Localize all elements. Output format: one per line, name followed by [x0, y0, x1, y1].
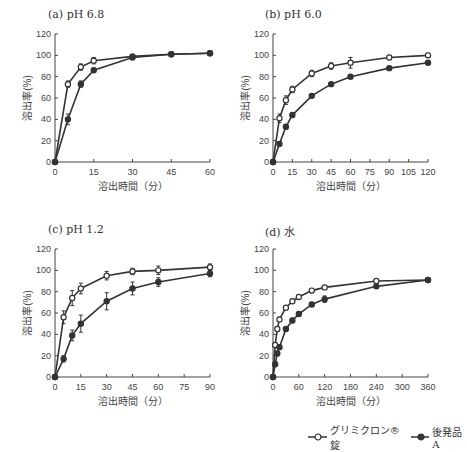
data-point	[309, 93, 314, 98]
data-point	[65, 82, 70, 87]
y-axis-label: 溶出率(%)	[239, 75, 251, 121]
x-tick-label: 0	[52, 382, 57, 392]
data-point	[78, 82, 83, 87]
data-point	[91, 58, 96, 63]
data-point	[290, 299, 295, 304]
x-axis-label: 溶出時間（分）	[316, 180, 386, 192]
chart-svg: 020406080100120060120180240300360溶出時間（分）…	[233, 215, 467, 425]
legend: グリミクロン®錠 後発品A	[308, 422, 467, 452]
chart-svg: 020406080100120015304560溶出時間（分）溶出率(%)	[0, 0, 233, 210]
x-tick-label: 120	[317, 382, 332, 392]
data-point	[425, 53, 430, 58]
y-tick-label: 100	[254, 50, 269, 60]
y-tick-label: 80	[41, 72, 51, 82]
x-tick-label: 45	[127, 382, 137, 392]
y-tick-label: 40	[41, 114, 51, 124]
data-point	[156, 268, 161, 273]
y-tick-label: 0	[46, 372, 51, 382]
y-tick-label: 0	[46, 157, 51, 167]
data-point	[130, 269, 135, 274]
x-tick-label: 300	[395, 382, 410, 392]
data-point	[348, 74, 353, 79]
chart-svg: 0204060801001200153045607590溶出時間（分）溶出率(%…	[0, 215, 233, 425]
chart-panel-c: (c) pH 1.2 0204060801001200153045607590溶…	[0, 215, 233, 425]
series-line	[273, 280, 428, 377]
data-point	[78, 64, 83, 69]
data-point	[61, 356, 66, 361]
legend-item-generic-a: 後発品A	[411, 424, 467, 450]
x-tick-label: 15	[76, 382, 86, 392]
x-tick-label: 15	[287, 167, 297, 177]
series-line	[55, 53, 210, 162]
x-tick-label: 105	[401, 167, 416, 177]
y-tick-label: 20	[41, 351, 51, 361]
data-point	[277, 141, 282, 146]
data-point	[387, 66, 392, 71]
x-tick-label: 15	[89, 167, 99, 177]
data-point	[329, 82, 334, 87]
data-point	[70, 295, 75, 300]
chart-title: (d) 水	[265, 223, 295, 239]
x-tick-label: 30	[307, 167, 317, 177]
data-point	[374, 278, 379, 283]
data-point	[78, 321, 83, 326]
data-point	[283, 98, 288, 103]
y-tick-label: 40	[259, 114, 269, 124]
x-tick-label: 75	[179, 382, 189, 392]
data-point	[130, 55, 135, 60]
data-point	[275, 326, 280, 331]
x-tick-label: 60	[345, 167, 355, 177]
data-point	[275, 351, 280, 356]
x-tick-label: 30	[102, 382, 112, 392]
x-tick-label: 60	[294, 382, 304, 392]
x-axis-label: 溶出時間（分）	[98, 180, 168, 192]
y-tick-label: 120	[36, 244, 51, 254]
chart-svg: 0204060801001200153045607590105120溶出時間（分…	[233, 0, 467, 210]
chart-panel-b: (b) pH 6.0 02040608010012001530456075901…	[233, 0, 466, 210]
x-tick-label: 0	[270, 167, 275, 177]
chart-title: (a) pH 6.8	[48, 8, 104, 21]
data-point	[329, 63, 334, 68]
y-tick-label: 120	[254, 244, 269, 254]
chart-panel-a: (a) pH 6.8 020406080100120015304560溶出時間（…	[0, 0, 233, 210]
y-tick-label: 40	[259, 329, 269, 339]
y-tick-label: 60	[41, 93, 51, 103]
y-tick-label: 80	[259, 72, 269, 82]
x-tick-label: 360	[420, 382, 435, 392]
data-point	[61, 315, 66, 320]
data-point	[309, 71, 314, 76]
series-line	[273, 280, 428, 377]
x-tick-label: 180	[343, 382, 358, 392]
y-tick-label: 120	[36, 29, 51, 39]
y-tick-label: 60	[259, 308, 269, 318]
x-tick-label: 30	[127, 167, 137, 177]
data-point	[207, 265, 212, 270]
data-point	[207, 271, 212, 276]
y-tick-label: 40	[41, 329, 51, 339]
y-tick-label: 100	[36, 50, 51, 60]
data-point	[52, 159, 57, 164]
data-point	[309, 288, 314, 293]
data-point	[322, 297, 327, 302]
y-tick-label: 20	[259, 136, 269, 146]
data-point	[374, 284, 379, 289]
data-point	[322, 285, 327, 290]
x-tick-label: 60	[153, 382, 163, 392]
legend-item-glimicron: グリミクロン®錠	[308, 422, 405, 452]
y-axis-label: 溶出率(%)	[21, 75, 33, 121]
y-tick-label: 100	[254, 265, 269, 275]
data-point	[283, 305, 288, 310]
y-tick-label: 80	[259, 287, 269, 297]
chart-panel-d: (d) 水 020406080100120060120180240300360溶…	[233, 215, 466, 425]
x-axis-label: 溶出時間（分）	[98, 395, 168, 407]
y-tick-label: 0	[264, 372, 269, 382]
y-tick-label: 80	[41, 287, 51, 297]
data-point	[270, 159, 275, 164]
y-tick-label: 20	[259, 351, 269, 361]
data-point	[296, 311, 301, 316]
data-point	[290, 87, 295, 92]
data-point	[283, 326, 288, 331]
data-point	[277, 317, 282, 322]
y-tick-label: 100	[36, 265, 51, 275]
x-tick-label: 0	[270, 382, 275, 392]
